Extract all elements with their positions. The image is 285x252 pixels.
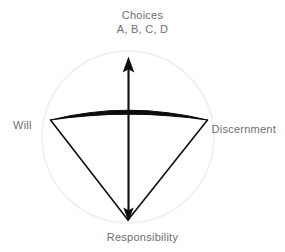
diagram-canvas: Choices A, B, C, D Will Discernment Resp… bbox=[0, 0, 285, 252]
label-responsibility: Responsibility bbox=[0, 231, 285, 244]
label-choices-options: A, B, C, D bbox=[0, 23, 285, 36]
left-cone-edge bbox=[51, 120, 129, 220]
label-discernment: Discernment bbox=[212, 123, 277, 136]
right-cone-edge bbox=[128, 120, 208, 220]
label-will: Will bbox=[13, 119, 32, 132]
label-choices: Choices bbox=[0, 9, 285, 22]
